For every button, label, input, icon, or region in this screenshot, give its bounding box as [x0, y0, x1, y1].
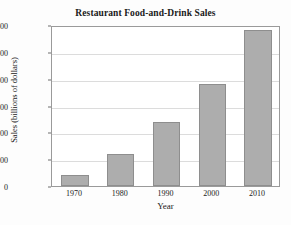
- x-axis-tick-label: 1990: [158, 189, 174, 198]
- y-axis-tick-mark: [48, 106, 51, 107]
- x-axis-label: Year: [51, 201, 280, 211]
- x-axis-tick-label: 2000: [203, 189, 219, 198]
- y-axis-tick-mark: [48, 133, 51, 134]
- y-axis-tick-mark: [48, 52, 51, 53]
- bar-1970: [61, 175, 88, 186]
- y-axis-tick-label: 400: [0, 75, 8, 84]
- bar-2010: [244, 30, 271, 186]
- chart-figure: Restaurant Food-and-Drink Sales Sales (b…: [0, 0, 291, 225]
- y-axis-tick-label: 0: [0, 183, 8, 192]
- x-axis-tick-label: 1980: [112, 189, 128, 198]
- y-axis-tick-mark: [48, 187, 51, 188]
- chart-title: Restaurant Food-and-Drink Sales: [0, 8, 291, 18]
- y-axis-tick-label: 200: [0, 129, 8, 138]
- y-axis-tick-label: 600: [0, 22, 8, 31]
- y-axis-tick-mark: [48, 26, 51, 27]
- y-axis-tick-mark: [48, 79, 51, 80]
- y-axis-tick-label: 500: [0, 48, 8, 57]
- y-axis-label: Sales (billions of dollars): [9, 20, 19, 180]
- y-axis-tick-mark: [48, 160, 51, 161]
- plot-area: [51, 26, 280, 187]
- bar-1990: [153, 122, 180, 186]
- y-axis-tick-label: 300: [0, 102, 8, 111]
- y-axis-tick-label: 100: [0, 156, 8, 165]
- x-axis-tick-label: 2010: [249, 189, 265, 198]
- bar-1980: [107, 154, 134, 186]
- bar-2000: [199, 84, 226, 186]
- x-axis-tick-label: 1970: [66, 189, 82, 198]
